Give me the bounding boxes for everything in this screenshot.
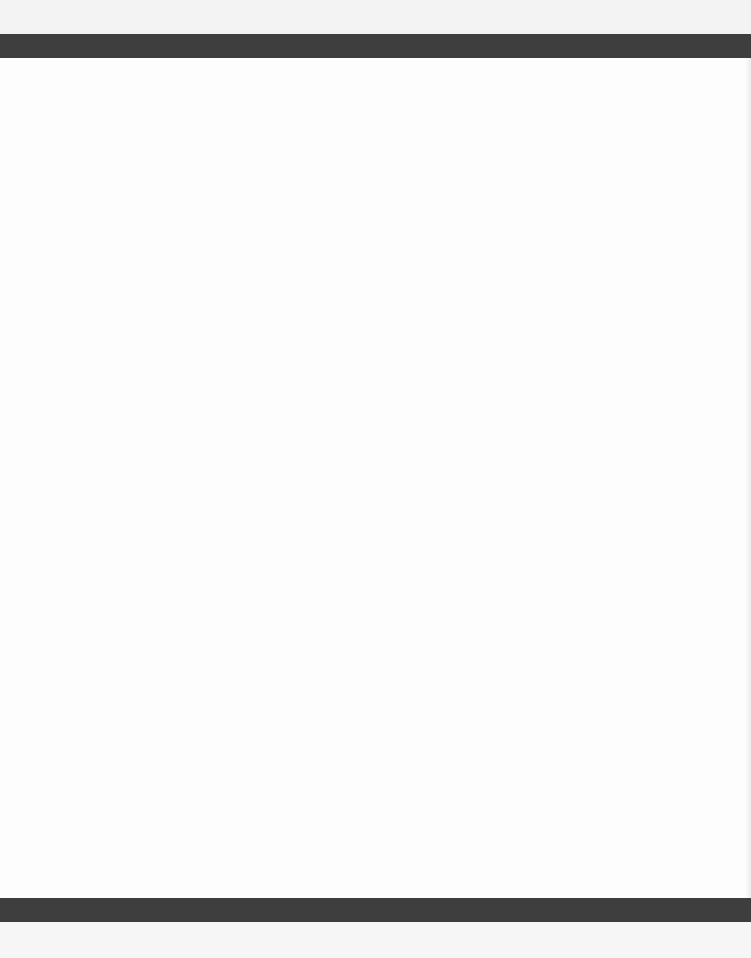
top-dark-band <box>0 34 751 58</box>
bottom-dark-band <box>0 898 751 922</box>
bottom-margin <box>0 922 751 958</box>
scanned-page <box>0 0 751 958</box>
page-body <box>0 58 745 898</box>
page-right-edge-shadow <box>745 58 751 898</box>
top-margin <box>0 0 751 34</box>
page-body-text <box>0 58 745 98</box>
